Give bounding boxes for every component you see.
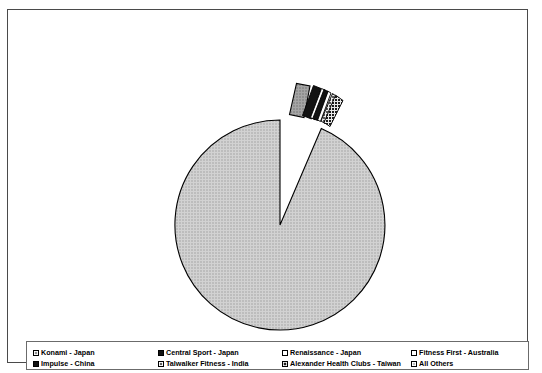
legend-swatch-icon bbox=[411, 361, 417, 367]
pie-chart-figure: Konami - Japan Central Sport - Japan Ren… bbox=[0, 0, 542, 373]
legend-item-talwalker-fitness-india[interactable]: Talwalker Fitness - India bbox=[158, 359, 249, 368]
legend-label: Fitness First - Australia bbox=[419, 348, 499, 357]
legend-item-fitness-first-australia[interactable]: Fitness First - Australia bbox=[411, 348, 499, 357]
legend-row: Impulse - China Talwalker Fitness - Indi… bbox=[27, 358, 528, 369]
legend-label: Alexander Health Clubs - Taiwan bbox=[290, 359, 401, 368]
legend-item-konami-japan[interactable]: Konami - Japan bbox=[33, 348, 95, 357]
legend-label: Konami - Japan bbox=[41, 348, 95, 357]
chart-outer-frame: Konami - Japan Central Sport - Japan Ren… bbox=[7, 9, 528, 363]
legend-swatch-icon bbox=[411, 350, 417, 356]
legend-item-central-sport-japan[interactable]: Central Sport - Japan bbox=[158, 348, 239, 357]
legend-row: Konami - Japan Central Sport - Japan Ren… bbox=[27, 347, 528, 358]
legend-swatch-icon bbox=[282, 350, 288, 356]
legend-label: Talwalker Fitness - India bbox=[166, 359, 249, 368]
legend-swatch-icon bbox=[33, 350, 39, 356]
legend-label: All Others bbox=[419, 359, 453, 368]
legend-swatch-icon bbox=[33, 361, 39, 367]
legend-swatch-icon bbox=[158, 361, 164, 367]
legend-label: Impulse - China bbox=[41, 359, 95, 368]
pie-slice-all-others bbox=[175, 120, 385, 330]
legend-swatch-icon bbox=[282, 361, 288, 367]
legend-item-renaissance-japan[interactable]: Renaissance - Japan bbox=[282, 348, 361, 357]
legend-item-impulse-china[interactable]: Impulse - China bbox=[33, 359, 95, 368]
legend-swatch-icon bbox=[158, 350, 164, 356]
chart-legend: Konami - Japan Central Sport - Japan Ren… bbox=[26, 341, 529, 370]
pie-chart-svg bbox=[16, 20, 535, 335]
legend-item-all-others[interactable]: All Others bbox=[411, 359, 453, 368]
pie-plot-area bbox=[16, 20, 535, 335]
legend-item-alexander-health-clubs-taiwan[interactable]: Alexander Health Clubs - Taiwan bbox=[282, 359, 401, 368]
legend-label: Renaissance - Japan bbox=[290, 348, 361, 357]
legend-label: Central Sport - Japan bbox=[166, 348, 239, 357]
